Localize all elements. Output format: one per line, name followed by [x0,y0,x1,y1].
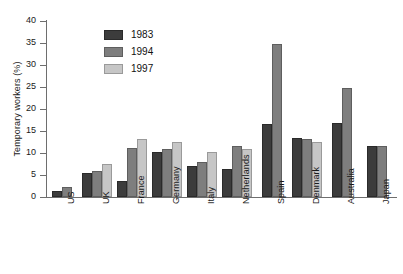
y-axis-tick-label: 35 [6,37,36,47]
bar-group [46,21,81,197]
bar-australia-1983 [332,123,342,197]
x-axis-label-spain: Spain [276,180,286,204]
x-axis-line [46,197,397,198]
y-axis-tick [40,197,47,198]
bar-chart: Temporary workers (%) 0510152025303540 U… [0,0,403,274]
legend-item-1997: 1997 [104,61,153,76]
y-axis-tick-label: 15 [6,125,36,135]
legend-label-1997: 1997 [131,63,153,74]
y-axis-tick-label: 25 [6,81,36,91]
x-axis-label-japan: Japan [381,179,391,204]
bar-italy-1983 [187,166,197,197]
x-axis-label-denmark: Denmark [311,167,321,204]
x-axis-label-italy: Italy [206,187,216,204]
bar-germany-1983 [152,152,162,197]
x-axis-label-uk: UK [101,191,111,204]
bar-uk-1983 [82,173,92,197]
bar-france-1994 [127,148,137,197]
x-axis-label-france: France [136,175,146,204]
bar-uk-1994 [92,171,102,197]
y-axis-tick-label: 0 [6,191,36,201]
bar-spain-1994 [272,44,282,197]
bar-japan-1983 [367,146,377,197]
y-axis-tick-label: 10 [6,147,36,157]
bar-netherlands-1994 [232,146,242,197]
y-axis-tick-label: 40 [6,15,36,25]
legend-item-1994: 1994 [104,44,153,59]
bar-us-1983 [52,191,62,197]
bar-denmark-1983 [292,138,302,197]
legend-swatch-1997 [104,64,123,74]
y-axis-tick-label: 30 [6,59,36,69]
x-axis-label-australia: Australia [346,168,356,204]
bar-spain-1983 [262,124,272,197]
x-axis-label-us: US [66,191,76,204]
bar-denmark-1994 [302,139,312,197]
legend-swatch-1994 [104,47,123,57]
y-axis-tick-label: 5 [6,169,36,179]
x-axis-label-netherlands: Netherlands [241,154,251,204]
bar-group [256,21,291,197]
legend-swatch-1983 [104,30,123,40]
legend-label-1994: 1994 [131,46,153,57]
bar-group [361,21,396,197]
legend-item-1983: 1983 [104,27,153,42]
bar-netherlands-1983 [222,169,232,197]
plot-area [46,21,396,197]
bar-group [186,21,221,197]
x-axis-label-germany: Germany [171,166,181,204]
y-axis-tick-label: 20 [6,103,36,113]
bar-germany-1994 [162,149,172,197]
legend-label-1983: 1983 [131,29,153,40]
bar-italy-1994 [197,162,207,197]
chart-legend: 198319941997 [104,27,153,78]
bar-france-1983 [117,181,127,197]
